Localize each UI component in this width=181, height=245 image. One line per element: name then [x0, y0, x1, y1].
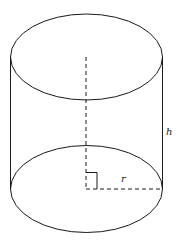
height-label: h: [166, 126, 172, 137]
radius-label: r: [121, 173, 127, 184]
cylinder-diagram: h r: [0, 0, 181, 245]
right-angle-marker: [86, 173, 97, 190]
